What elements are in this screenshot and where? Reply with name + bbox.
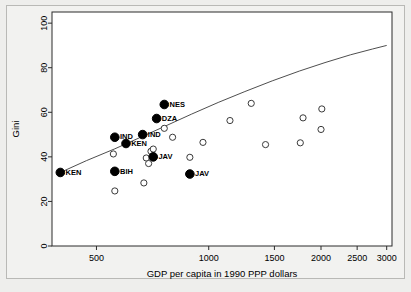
data-point-label: JAV <box>195 169 209 178</box>
x-tick-label: 2500 <box>347 253 367 263</box>
data-point-open <box>262 142 268 148</box>
figure-root: 50010001500200025003000 020406080100 KEN… <box>0 0 411 292</box>
data-point-label: KEN <box>131 139 147 148</box>
data-point-open <box>227 117 233 123</box>
data-point-label: IND <box>148 130 162 139</box>
data-point-open <box>319 106 325 112</box>
x-tick-label: 2000 <box>311 253 331 263</box>
y-axis-ticks: 020406080100 <box>39 16 52 249</box>
x-tick-label: 1500 <box>264 253 284 263</box>
data-point-open <box>187 154 193 160</box>
data-point-open <box>112 188 118 194</box>
data-point-open <box>161 125 167 131</box>
data-point-filled <box>111 133 120 142</box>
y-tick-label: 60 <box>39 107 49 117</box>
data-point-filled <box>152 114 161 123</box>
data-point-filled <box>111 167 120 176</box>
data-point-open <box>248 100 254 106</box>
y-tick-label: 100 <box>39 16 49 31</box>
y-axis-title: Gini <box>10 121 21 138</box>
data-point-filled <box>160 100 169 109</box>
x-axis-title: GDP per capita in 1990 PPP dollars <box>147 268 298 279</box>
data-point-label: JAV <box>158 152 172 161</box>
data-point-open <box>150 146 156 152</box>
data-point-filled <box>56 168 65 177</box>
y-tick-label: 80 <box>39 63 49 73</box>
data-point-open <box>297 140 303 146</box>
data-point-open <box>169 134 175 140</box>
data-point-label: KEN <box>66 168 82 177</box>
data-point-open <box>141 180 147 186</box>
data-point-open <box>146 160 152 166</box>
data-point-filled <box>138 130 147 139</box>
x-tick-label: 1000 <box>199 253 219 263</box>
plot-area-background <box>52 12 392 246</box>
data-point-filled <box>186 170 195 179</box>
data-point-label: BIH <box>120 167 133 176</box>
data-point-open <box>200 139 206 145</box>
data-point-label: NES <box>169 100 184 109</box>
data-point-open <box>300 115 306 121</box>
data-point-label: DZA <box>162 114 178 123</box>
data-point-open <box>110 151 116 157</box>
x-tick-label: 500 <box>89 253 104 263</box>
x-tick-label: 3000 <box>377 253 397 263</box>
y-tick-label: 20 <box>39 196 49 206</box>
scatter-plot-canvas: 50010001500200025003000 020406080100 KEN… <box>0 0 411 292</box>
data-point-filled <box>149 153 158 162</box>
x-axis-ticks: 50010001500200025003000 <box>89 246 397 263</box>
y-tick-label: 0 <box>39 243 49 248</box>
y-tick-label: 40 <box>39 152 49 162</box>
data-point-open <box>318 126 324 132</box>
